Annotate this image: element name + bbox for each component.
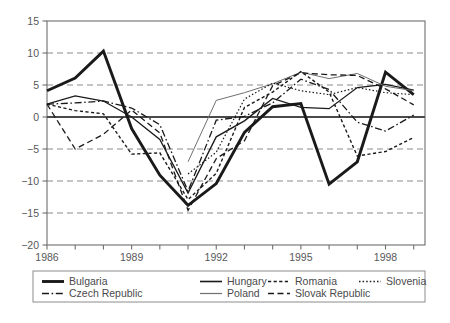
y-tick-label: −5 — [27, 143, 39, 155]
data-series-group — [47, 51, 414, 210]
legend-label: Slovak Republic — [295, 287, 370, 299]
y-tick-label: 15 — [27, 15, 39, 27]
legend-label: Hungary — [227, 275, 267, 287]
legend-box: BulgariaHungaryRomaniaSloveniaCzech Repu… — [33, 271, 426, 302]
x-axis-tick-labels: 19861989199219951998 — [35, 251, 397, 263]
legend-label: Romania — [295, 275, 337, 287]
figure-caption — [22, 312, 442, 321]
series-line-romania — [47, 72, 414, 200]
legend-label: Poland — [227, 287, 260, 299]
x-tick-label: 1998 — [374, 251, 398, 263]
y-tick-label: −15 — [21, 207, 39, 219]
figure-container: 151050−5−10−15−20 19861989199219951998 B… — [0, 0, 450, 323]
line-chart: 151050−5−10−15−20 19861989199219951998 B… — [0, 0, 450, 323]
x-axis-ticks — [47, 245, 414, 250]
legend-label: Bulgaria — [69, 275, 108, 287]
y-tick-label: 10 — [27, 47, 39, 59]
y-axis-ticks — [43, 21, 48, 245]
series-line-slovak-republic — [47, 73, 414, 211]
legend-label: Slovenia — [386, 275, 426, 287]
y-axis-tick-labels: 151050−5−10−15−20 — [21, 15, 39, 251]
x-tick-label: 1986 — [35, 251, 59, 263]
y-tick-label: −10 — [21, 175, 39, 187]
y-tick-label: −20 — [21, 239, 39, 251]
x-tick-label: 1989 — [120, 251, 144, 263]
gridlines — [47, 53, 425, 213]
x-tick-label: 1995 — [289, 251, 313, 263]
y-tick-label: 5 — [33, 79, 39, 91]
x-tick-label: 1992 — [205, 251, 229, 263]
legend-label: Czech Republic — [69, 287, 143, 299]
y-tick-label: 0 — [33, 111, 39, 123]
